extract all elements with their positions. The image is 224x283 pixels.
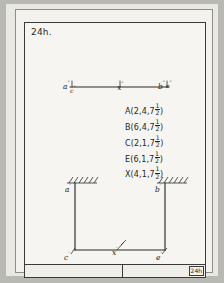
label-c-prime: c′ [64,250,70,262]
label-c-double-prime: c″ [70,84,76,94]
tick-e-prime [162,248,167,254]
title-block-number: 24h [189,266,204,276]
page-title: 24h. [31,27,52,37]
coordinate-row: E(6,1,712) [125,151,163,167]
drawing-sheet: 24h. [6,4,218,276]
label-e-prime: e′ [156,250,162,262]
tick-x-prime-2 [121,240,126,245]
support-hatch-left [67,177,98,183]
coordinate-row: B(6,4,712) [125,119,163,135]
tick-c-prime [71,248,75,254]
label-x-prime: x′ [112,245,118,257]
geometry-drawing [25,23,205,265]
front-view-ticks [71,240,167,254]
coordinate-list: A(2,4,712) B(6,4,712) C(2,1,712) E(6,1,7… [125,103,163,182]
drawing-border-frame: 24h. [24,22,206,266]
front-view-group [75,183,165,250]
paper-surface: 24h. [16,10,212,272]
label-x-double-prime: x″ [117,80,123,92]
label-b-prime: b′ [155,182,161,194]
coordinate-row: A(2,4,712) [125,103,163,119]
title-block-left-cell [25,265,123,277]
label-a-prime: a′ [65,182,71,194]
title-block: 24h [24,264,206,278]
coordinate-row: X(4,1,712) [125,166,163,182]
tick-x-prime [117,242,124,250]
label-a-double-prime: a″ [63,79,70,91]
coordinate-row: C(2,1,712) [125,135,163,151]
label-e-double-prime: e″ [166,79,172,89]
label-b-double-prime: b″ [158,79,165,91]
title-block-right-cell: 24h [123,265,205,277]
